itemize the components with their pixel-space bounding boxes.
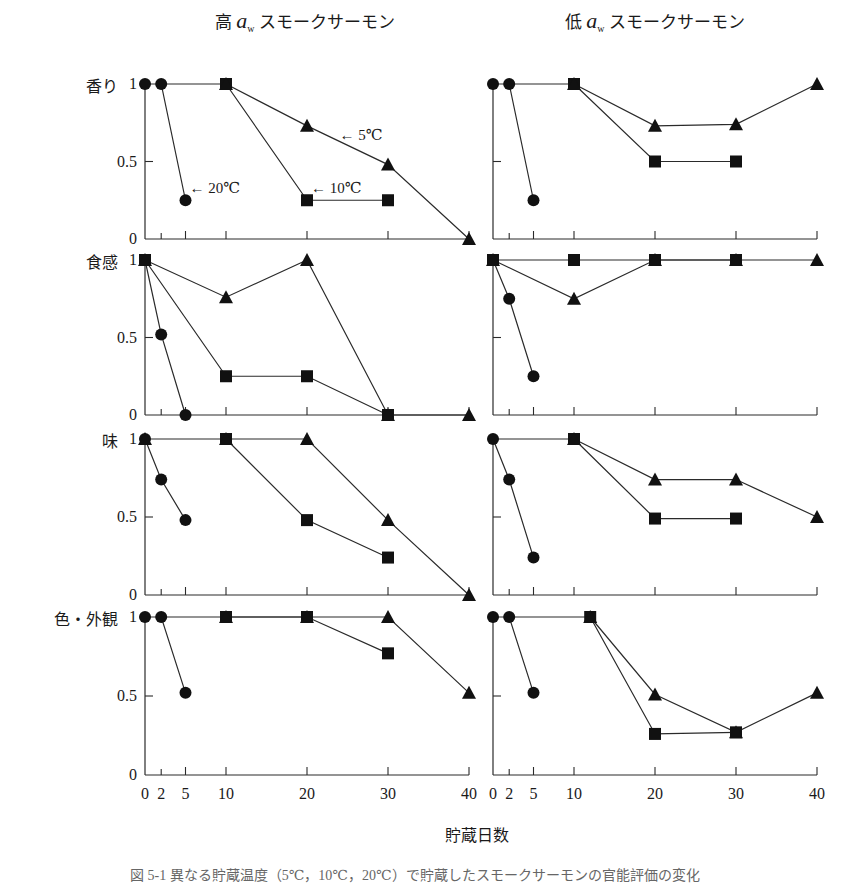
y-tick-label: 0 (129, 230, 137, 247)
marker-square-10c (382, 647, 394, 659)
marker-square-10c (301, 370, 313, 382)
y-tick-label: 1 (129, 430, 137, 447)
figure-caption: 図 5-1 異なる貯蔵温度（5℃，10℃，20℃）で貯蔵したスモークサーモンの官… (130, 864, 700, 884)
marker-triangle-5c (219, 290, 233, 303)
marker-circle-20c (180, 409, 192, 421)
marker-square-10c (649, 513, 661, 525)
x-axis-label: 貯蔵日数 (445, 822, 509, 846)
y-tick-label: 0.5 (117, 329, 137, 346)
x-tick-label: 10 (218, 785, 234, 802)
y-tick-label: 0 (129, 586, 137, 603)
y-tick-label: 1 (129, 608, 137, 625)
x-tick-label: 20 (647, 785, 663, 802)
marker-triangle-5c (810, 77, 824, 90)
marker-circle-20c (139, 78, 151, 90)
y-tick-label: 1 (129, 251, 137, 268)
marker-square-10c (649, 156, 661, 168)
marker-triangle-5c (300, 119, 314, 132)
series-line (226, 84, 469, 239)
marker-square-10c (649, 728, 661, 740)
x-tick-label: 30 (380, 785, 396, 802)
panel-香り-high-aw: 10.50 (117, 75, 476, 247)
series-line (226, 617, 469, 693)
series-line (493, 439, 534, 558)
marker-triangle-5c (810, 510, 824, 523)
marker-circle-20c (155, 611, 167, 623)
marker-circle-20c (180, 514, 192, 526)
marker-circle-20c (528, 370, 540, 382)
marker-square-10c (568, 254, 580, 266)
marker-triangle-5c (300, 253, 314, 266)
marker-circle-20c (503, 611, 515, 623)
series-line (574, 439, 817, 517)
marker-circle-20c (155, 78, 167, 90)
series-line (145, 260, 388, 415)
x-tick-label: 30 (728, 785, 744, 802)
y-tick-label: 0.5 (117, 153, 137, 170)
marker-square-10c (220, 370, 232, 382)
series-line (493, 84, 534, 200)
panel-香り-low-aw (487, 77, 824, 239)
x-tick-label: 5 (530, 785, 538, 802)
panel-食感-low-aw (486, 253, 824, 415)
y-tick-label: 0.5 (117, 687, 137, 704)
series-line (145, 84, 186, 200)
x-tick-label: 20 (299, 785, 315, 802)
series-line (590, 617, 817, 732)
x-tick-label: 10 (566, 785, 582, 802)
series-line (145, 617, 186, 693)
marker-circle-20c (139, 611, 151, 623)
series-line (145, 260, 469, 415)
x-tick-label: 40 (809, 785, 825, 802)
marker-square-10c (730, 156, 742, 168)
x-tick-label: 0 (489, 785, 497, 802)
y-tick-label: 1 (129, 75, 137, 92)
marker-circle-20c (528, 687, 540, 699)
series-line (493, 260, 534, 376)
marker-circle-20c (180, 687, 192, 699)
panel-色・外観-low-aw: 02510203040 (487, 610, 825, 802)
marker-triangle-5c (567, 292, 581, 305)
marker-circle-20c (503, 474, 515, 486)
x-tick-label: 2 (505, 785, 513, 802)
x-tick-label: 0 (141, 785, 149, 802)
x-tick-label: 2 (157, 785, 165, 802)
marker-square-10c (382, 552, 394, 564)
marker-circle-20c (155, 328, 167, 340)
temperature-annotation: ← 5℃ (339, 127, 382, 143)
marker-circle-20c (487, 78, 499, 90)
marker-square-10c (730, 513, 742, 525)
y-tick-label: 0 (129, 406, 137, 423)
x-tick-label: 5 (182, 785, 190, 802)
marker-circle-20c (503, 293, 515, 305)
series-line (590, 617, 736, 734)
marker-square-10c (301, 514, 313, 526)
temperature-annotation: ← 20℃ (190, 180, 241, 196)
panel-味-high-aw: 10.50 (117, 430, 476, 603)
marker-circle-20c (528, 194, 540, 206)
marker-square-10c (382, 194, 394, 206)
panel-色・外観-high-aw: 10.5002510203040 (117, 608, 477, 802)
y-tick-label: 0.5 (117, 508, 137, 525)
panel-味-low-aw (487, 432, 824, 595)
marker-triangle-5c (810, 686, 824, 699)
marker-triangle-5c (381, 158, 395, 171)
marker-circle-20c (528, 552, 540, 564)
marker-circle-20c (487, 611, 499, 623)
marker-circle-20c (487, 433, 499, 445)
y-tick-label: 0 (129, 766, 137, 783)
series-line (493, 617, 534, 693)
series-line (226, 439, 388, 558)
marker-circle-20c (155, 474, 167, 486)
x-tick-label: 40 (461, 785, 477, 802)
marker-square-10c (301, 194, 313, 206)
temperature-annotation: ← 10℃ (311, 180, 362, 196)
panel-食感-high-aw: 10.50 (117, 251, 476, 423)
marker-circle-20c (180, 194, 192, 206)
marker-circle-20c (503, 78, 515, 90)
